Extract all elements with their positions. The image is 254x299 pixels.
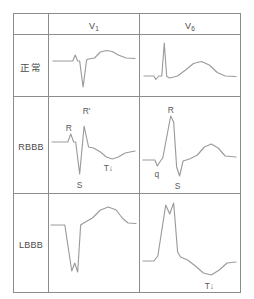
row-header-lbbb-label: LBBB bbox=[19, 240, 43, 250]
table-row: 正常 bbox=[14, 35, 241, 97]
annotation-q: q bbox=[154, 169, 159, 179]
table-header-row: V1 V6 bbox=[14, 14, 241, 35]
waveform-rbbb-v6: R q S bbox=[140, 97, 240, 193]
column-header-v1-label: V1 bbox=[89, 21, 99, 31]
annotation-s: S bbox=[77, 180, 83, 190]
waveform-normal-v6 bbox=[140, 35, 240, 96]
row-header-rbbb: RBBB bbox=[14, 97, 49, 194]
waveform-normal-v1 bbox=[49, 35, 139, 96]
row-header-normal: 正常 bbox=[14, 35, 49, 97]
table-row: RBBB R R' S T↓ R q S bbox=[14, 97, 241, 194]
annotation-s: S bbox=[175, 181, 181, 191]
annotation-r-prime: R' bbox=[83, 106, 91, 116]
ecg-comparison-table: V1 V6 正常 bbox=[13, 13, 241, 293]
corner-cell bbox=[14, 14, 49, 35]
column-header-v6: V6 bbox=[140, 14, 241, 35]
annotation-r: R bbox=[168, 105, 174, 115]
column-header-v1: V1 bbox=[49, 14, 140, 35]
figure-canvas: V1 V6 正常 bbox=[0, 0, 254, 299]
row-header-rbbb-label: RBBB bbox=[18, 142, 44, 152]
waveform-rbbb-v1: R R' S T↓ bbox=[49, 97, 139, 193]
waveform-cell-rbbb-v6: R q S bbox=[140, 97, 241, 194]
waveform-cell-lbbb-v6: T↓ bbox=[140, 194, 241, 293]
table-row: LBBB T↓ bbox=[14, 194, 241, 293]
annotation-t-inverted: T↓ bbox=[104, 163, 113, 173]
waveform-cell-lbbb-v1 bbox=[49, 194, 140, 293]
annotation-r: R bbox=[66, 123, 72, 133]
waveform-cell-normal-v6 bbox=[140, 35, 241, 97]
waveform-cell-normal-v1 bbox=[49, 35, 140, 97]
column-header-v6-label: V6 bbox=[185, 21, 195, 31]
waveform-cell-rbbb-v1: R R' S T↓ bbox=[49, 97, 140, 194]
row-header-normal-label: 正常 bbox=[20, 62, 42, 73]
row-header-lbbb: LBBB bbox=[14, 194, 49, 293]
waveform-lbbb-v1 bbox=[49, 194, 139, 292]
waveform-lbbb-v6: T↓ bbox=[140, 194, 240, 292]
annotation-t-inverted: T↓ bbox=[205, 281, 214, 291]
